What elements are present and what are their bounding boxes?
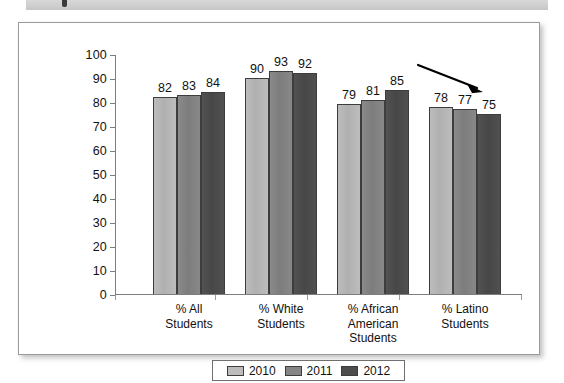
bar-value-label: 82 — [158, 81, 172, 95]
bar-value-label: 78 — [434, 91, 448, 105]
x-axis-line — [115, 294, 522, 295]
bar-group-bars: 798185 — [337, 54, 409, 294]
bar-group-bars: 828384 — [153, 54, 225, 294]
y-axis-tick-label: 80 — [75, 96, 107, 110]
bar[interactable]: 75 — [477, 114, 501, 294]
bar-group-bars: 787775 — [429, 54, 501, 294]
bar[interactable]: 81 — [361, 100, 385, 294]
legend-item[interactable]: 2010 — [224, 364, 279, 378]
y-axis-tick — [110, 271, 115, 272]
bar-group: 828384 — [153, 54, 225, 294]
bar[interactable]: 83 — [177, 95, 201, 294]
bar-value-label: 92 — [298, 57, 312, 71]
y-axis-tick-label: 90 — [75, 72, 107, 86]
bar-value-label: 77 — [458, 93, 472, 107]
chart-figure-panel: 1009080706050403020100 82838490939279818… — [18, 22, 540, 355]
bar-group: 909392 — [245, 54, 317, 294]
bar[interactable]: 90 — [245, 78, 269, 294]
y-axis-tick-label: 100 — [75, 48, 107, 62]
category-separator-tick — [215, 295, 216, 300]
legend-swatch — [227, 366, 244, 376]
bar-value-label: 90 — [250, 62, 264, 76]
y-axis-tick-label: 40 — [75, 192, 107, 206]
bar-value-label: 79 — [342, 88, 356, 102]
category-label: % Latino Students — [410, 302, 520, 331]
y-axis-tick-label: 0 — [75, 288, 107, 302]
legend-swatch — [341, 366, 358, 376]
y-axis-line — [115, 55, 116, 295]
y-axis-tick — [110, 103, 115, 104]
bar-value-label: 81 — [366, 84, 380, 98]
bar[interactable]: 93 — [269, 71, 293, 294]
y-axis-tick-label: 70 — [75, 120, 107, 134]
bar-value-label: 83 — [182, 79, 196, 93]
y-axis-tick-label: 20 — [75, 240, 107, 254]
bar-value-label: 84 — [206, 76, 220, 90]
legend-swatch — [285, 366, 302, 376]
y-axis-tick — [110, 127, 115, 128]
legend-item[interactable]: 2012 — [338, 364, 393, 378]
legend-label: 2012 — [363, 364, 390, 378]
y-axis-tick — [110, 55, 115, 56]
bar-group: 787775 — [429, 54, 501, 294]
header-strip-text-descender — [62, 0, 67, 7]
document-header-strip — [26, 0, 548, 10]
bar[interactable]: 78 — [429, 107, 453, 294]
y-axis-tick-label: 50 — [75, 168, 107, 182]
y-axis-tick — [110, 175, 115, 176]
bar[interactable]: 82 — [153, 97, 177, 294]
y-axis-tick — [110, 247, 115, 248]
category-separator-tick — [115, 295, 116, 300]
y-axis-tick — [110, 79, 115, 80]
y-axis-tick — [110, 199, 115, 200]
y-axis-tick — [110, 223, 115, 224]
chart-legend: 201020112012 — [212, 360, 405, 381]
bar[interactable]: 79 — [337, 104, 361, 294]
bar-value-label: 85 — [390, 74, 404, 88]
bar[interactable]: 85 — [385, 90, 409, 294]
bar[interactable]: 84 — [201, 92, 225, 294]
category-separator-tick — [307, 295, 308, 300]
plot-area: 1009080706050403020100 82838490939279818… — [115, 55, 522, 295]
y-axis-tick — [110, 151, 115, 152]
legend-item[interactable]: 2011 — [282, 364, 336, 378]
bar-value-label: 93 — [274, 55, 288, 69]
y-axis-tick-label: 10 — [75, 264, 107, 278]
bar[interactable]: 77 — [453, 109, 477, 294]
category-separator-tick — [399, 295, 400, 300]
bar-group-bars: 909392 — [245, 54, 317, 294]
y-axis-tick-label: 30 — [75, 216, 107, 230]
category-separator-tick — [521, 295, 522, 300]
bar-group: 798185 — [337, 54, 409, 294]
legend-label: 2010 — [249, 364, 276, 378]
legend-label: 2011 — [307, 364, 333, 378]
bar[interactable]: 92 — [293, 73, 317, 294]
y-axis-tick-label: 60 — [75, 144, 107, 158]
bar-value-label: 75 — [482, 98, 496, 112]
